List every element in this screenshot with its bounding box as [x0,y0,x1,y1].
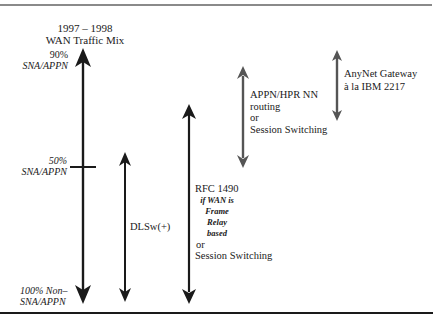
appn-hpr-routing: routing [250,101,350,112]
mid-percent: 50% [8,155,67,166]
rfc1490-qualifier-1: if WAN is [195,195,239,206]
top-type: SNA/APPN [10,60,68,71]
bottom-line2: SNA/APPN [20,296,72,307]
scale-label-top: 90% SNA/APPN [10,49,68,71]
appn-hpr-label-block: APPN/HPR NN routing or Session Switching [250,88,350,136]
rfc1490-title: RFC 1490 [195,183,255,195]
rfc1490-alt: Session Switching [195,250,255,262]
rfc1490-label-block: RFC 1490 if WAN is Frame Relay based or … [195,183,255,262]
rfc1490-qualifier-3: based [195,228,239,239]
appn-hpr-alt: Session Switching [250,123,350,136]
appn-hpr-double-arrow-icon [237,66,249,168]
rfc1490-double-arrow-icon [182,104,196,304]
top-percent: 90% [10,49,68,60]
anynet-subtitle: à la IBM 2217 [344,80,433,93]
diagram-title: 1997 – 1998 WAN Traffic Mix [40,22,130,46]
appn-hpr-title: APPN/HPR NN [250,88,350,101]
bottom-line1: 100% Non– [20,285,72,296]
scale-label-mid: 50% SNA/APPN [8,155,67,177]
dlsw-label: DLSw(+) [130,221,170,233]
rfc1490-qualifier-2: Frame Relay [195,206,239,228]
anynet-title: AnyNet Gateway [344,67,433,80]
traffic-mix-scale-arrow-icon [70,48,96,304]
anynet-label-block: AnyNet Gateway à la IBM 2217 [344,67,433,93]
title-text: WAN Traffic Mix [40,34,130,46]
appn-hpr-or: or [250,112,350,123]
rfc1490-or: or [195,239,255,251]
scale-label-bottom: 100% Non– SNA/APPN [20,285,72,307]
mid-type: SNA/APPN [8,166,67,177]
title-years: 1997 – 1998 [40,22,130,34]
